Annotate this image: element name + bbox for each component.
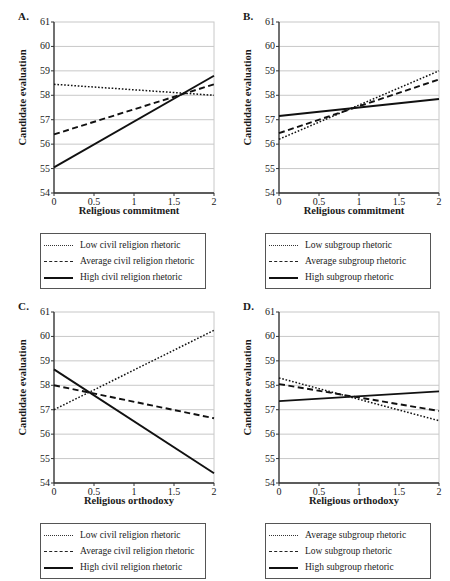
plot-area	[225, 0, 450, 225]
legend-item-label: High civil religion rhetoric	[80, 272, 182, 282]
plot-frame	[54, 22, 214, 193]
series-line-dashed	[54, 84, 214, 134]
legend-item: Average subgroup rhetoric	[266, 253, 430, 269]
chart-panel-d: D.Candidate evaluationReligious orthodox…	[225, 290, 450, 581]
legend-solid-line-icon	[41, 562, 75, 572]
legend-item: Average civil religion rhetoric	[41, 543, 205, 559]
chart-panel-b: B.Candidate evaluationReligious commitme…	[225, 0, 450, 290]
legend-item: High civil religion rhetoric	[41, 269, 205, 285]
plot-area	[0, 0, 225, 225]
legend: Low civil religion rhetoricAverage civil…	[40, 233, 206, 289]
legend-item: Average civil religion rhetoric	[41, 253, 205, 269]
series-line-dashed	[279, 79, 439, 133]
legend: Average subgroup rhetoricLow subgroup rh…	[265, 523, 431, 579]
legend: Low subgroup rhetoricAverage subgroup rh…	[265, 233, 431, 289]
series-line-solid	[279, 99, 439, 116]
series-line-dotted	[54, 330, 214, 409]
legend-dotted-line-icon	[266, 240, 300, 250]
legend-item-label: High civil religion rhetoric	[80, 562, 182, 572]
legend-dotted-line-icon	[41, 530, 75, 540]
legend-item: Low civil religion rhetoric	[41, 527, 205, 543]
plot-area	[225, 290, 450, 515]
chart-panel-c: C.Candidate evaluationReligious orthodox…	[0, 290, 225, 581]
series-line-solid	[54, 76, 214, 168]
legend-solid-line-icon	[266, 272, 300, 282]
legend-item: Low civil religion rhetoric	[41, 237, 205, 253]
series-line-dotted	[279, 71, 439, 139]
series-line-dashed	[279, 384, 439, 411]
legend-item-label: Low civil religion rhetoric	[80, 530, 181, 540]
legend-item-label: Average subgroup rhetoric	[305, 530, 406, 540]
legend-solid-line-icon	[266, 562, 300, 572]
legend-dotted-line-icon	[266, 530, 300, 540]
legend-item: Average subgroup rhetoric	[266, 527, 430, 543]
legend: Low civil religion rhetoricAverage civil…	[40, 523, 206, 579]
legend-item-label: Average subgroup rhetoric	[305, 256, 406, 266]
legend-item: Low subgroup rhetoric	[266, 543, 430, 559]
legend-dashed-line-icon	[41, 546, 75, 556]
legend-item-label: Average civil religion rhetoric	[80, 546, 195, 556]
legend-dashed-line-icon	[266, 546, 300, 556]
legend-item: High subgroup rhetoric	[266, 269, 430, 285]
plot-area	[0, 290, 225, 515]
legend-item-label: Average civil religion rhetoric	[80, 256, 195, 266]
legend-item: High civil religion rhetoric	[41, 559, 205, 575]
legend-item-label: High subgroup rhetoric	[305, 272, 394, 282]
legend-item-label: High subgroup rhetoric	[305, 562, 394, 572]
legend-dashed-line-icon	[41, 256, 75, 266]
legend-item: Low subgroup rhetoric	[266, 237, 430, 253]
legend-item-label: Low subgroup rhetoric	[305, 240, 392, 250]
figure-panel-grid: A.Candidate evaluationReligious commitme…	[0, 0, 450, 581]
legend-item: High subgroup rhetoric	[266, 559, 430, 575]
legend-item-label: Low subgroup rhetoric	[305, 546, 392, 556]
legend-dashed-line-icon	[266, 256, 300, 266]
legend-dotted-line-icon	[41, 240, 75, 250]
series-line-dashed	[54, 385, 214, 418]
chart-panel-a: A.Candidate evaluationReligious commitme…	[0, 0, 225, 290]
legend-item-label: Low civil religion rhetoric	[80, 240, 181, 250]
legend-solid-line-icon	[41, 272, 75, 282]
